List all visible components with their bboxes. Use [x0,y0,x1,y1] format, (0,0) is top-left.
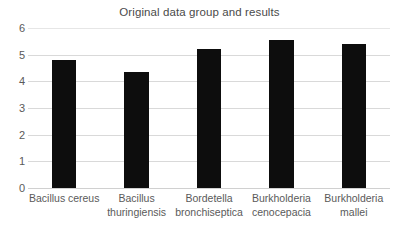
bar [342,44,366,188]
gridline [28,28,390,29]
y-axis-tick-label: 1 [3,155,25,167]
bar [124,72,148,188]
plot-area [28,28,390,188]
y-axis-tick-label: 2 [3,129,25,141]
y-axis-tick-label: 0 [3,182,25,194]
x-axis-category-line: cenocepacia [245,206,317,220]
x-axis: Bacillus cereusBacillusthuringiensisBord… [28,190,390,232]
gridline [28,188,390,189]
y-axis-tick-label: 6 [3,22,25,34]
bar-chart: Original data group and results 0123456 … [0,0,399,232]
y-axis-tick-label: 4 [3,75,25,87]
chart-title: Original data group and results [0,6,399,18]
x-axis-category-label: Bacillusthuringiensis [100,190,172,232]
y-axis: 0123456 [0,28,25,188]
x-axis-category-label: Bordetellabronchiseptica [173,190,245,232]
x-axis-category-line: Bordetella [173,192,245,206]
y-axis-tick-label: 3 [3,102,25,114]
x-axis-category-label: Bacillus cereus [28,190,100,232]
y-axis-tick-label: 5 [3,49,25,61]
x-axis-category-line: bronchiseptica [173,206,245,220]
bar [52,60,76,188]
bar [197,49,221,188]
bar [269,40,293,188]
x-axis-category-label: Burkholderiacenocepacia [245,190,317,232]
x-axis-category-line: thuringiensis [100,206,172,220]
x-axis-category-line: Burkholderia [318,192,390,206]
x-axis-category-label: Burkholderiamallei [318,190,390,232]
x-axis-category-line: Bacillus [100,192,172,206]
x-axis-category-line: Burkholderia [245,192,317,206]
x-axis-category-line: mallei [318,206,390,220]
x-axis-category-line: Bacillus cereus [28,192,100,206]
